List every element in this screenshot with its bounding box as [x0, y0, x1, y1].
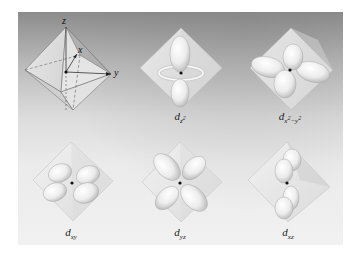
orbital-dx2-y2: [249, 28, 333, 110]
y-axis-label: y: [114, 67, 118, 78]
orbital-dxy: [33, 142, 113, 221]
orbital-dyz: [142, 142, 222, 222]
label-dz2: dz2: [174, 110, 185, 125]
z-axis-label: z: [62, 15, 66, 26]
label-dxy: dxy: [65, 226, 77, 241]
orbital-dz2: [140, 28, 222, 108]
label-dxz: dxz: [282, 226, 293, 241]
reference-octahedron: [25, 27, 111, 110]
orbital-diagram: [0, 0, 361, 255]
label-dx2-y2: dx2−y2: [279, 110, 301, 125]
label-dyz: dyz: [174, 226, 185, 241]
x-axis-label: x: [78, 44, 82, 55]
orbital-dxz: [248, 142, 330, 222]
